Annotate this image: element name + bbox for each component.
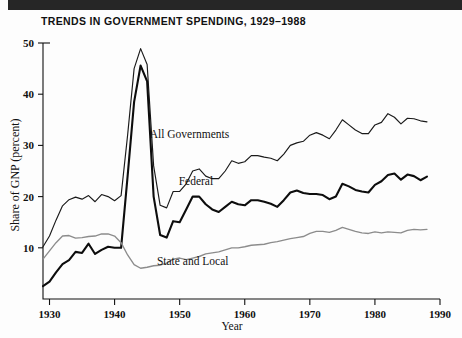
x-tick-label: 1930	[39, 308, 62, 320]
x-tick-label: 1950	[169, 308, 192, 320]
series-label-state-and-local: State and Local	[157, 255, 229, 267]
series-line-all-governments	[43, 49, 427, 247]
y-tick-group: 1020304050	[23, 37, 50, 254]
chart-plot-area: Share of GNP (percent) 1020304050 193019…	[0, 0, 462, 338]
y-tick-label: 10	[23, 242, 35, 254]
x-tick-label: 1970	[299, 308, 322, 320]
x-tick-label: 1990	[429, 308, 452, 320]
y-tick-label: 30	[23, 139, 35, 151]
axes-group	[43, 43, 440, 299]
x-axis-label: Year	[221, 320, 242, 332]
series-line-federal	[43, 66, 427, 287]
series-group	[43, 49, 427, 287]
figure-container: TRENDS IN GOVERNMENT SPENDING, 1929–1988…	[0, 0, 462, 338]
axis-spines	[43, 43, 440, 299]
series-line-state-and-local	[43, 227, 427, 268]
y-axis-label-group: Share of GNP (percent)	[8, 118, 22, 231]
x-tick-label: 1940	[104, 308, 127, 320]
series-label-all-governments: All Governments	[150, 128, 230, 140]
x-tick-label: 1980	[364, 308, 387, 320]
x-tick-label: 1960	[234, 308, 257, 320]
series-label-federal: Federal	[179, 175, 213, 187]
x-tick-group: 1930194019501960197019801990	[39, 299, 452, 320]
y-tick-label: 50	[23, 37, 35, 49]
y-tick-label: 20	[23, 191, 35, 203]
series-annotation-group: All GovernmentsFederalState and Local	[150, 128, 230, 267]
y-axis-label: Share of GNP (percent)	[8, 118, 22, 231]
y-tick-label: 40	[23, 88, 35, 100]
